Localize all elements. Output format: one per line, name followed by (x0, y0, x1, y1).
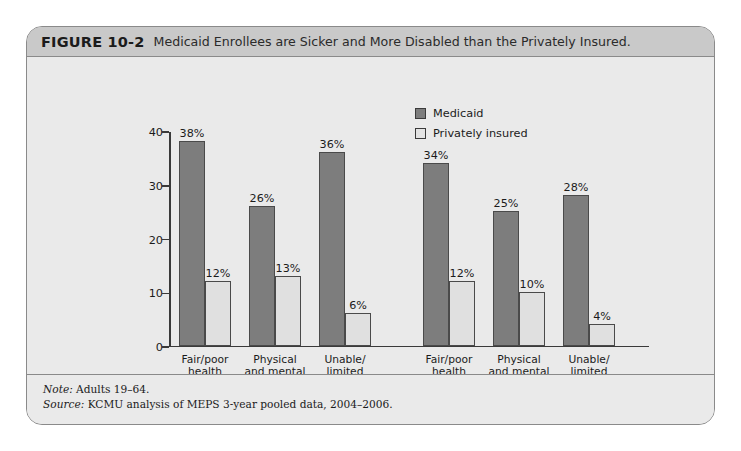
bar-private: 4% (589, 324, 615, 346)
y-axis-tick-mark (162, 346, 169, 348)
bar-value-label: 10% (520, 278, 545, 291)
y-axis-tick-mark (162, 185, 169, 187)
bar-chart: 010203040 38%12%26%13%36%6%34%12%25%10%2… (143, 132, 643, 347)
bar-value-label: 12% (450, 267, 475, 280)
bar-value-label: 25% (494, 197, 519, 210)
bar-value-label: 34% (424, 149, 449, 162)
bar-medicaid: 26% (249, 206, 275, 346)
bar-value-label: 13% (276, 262, 301, 275)
y-axis-tick-label: 10 (137, 287, 163, 300)
y-axis-tick-label: 20 (137, 233, 163, 246)
legend-label: Medicaid (433, 107, 483, 120)
y-axis-tick-label: 0 (137, 341, 163, 354)
legend-swatch-icon (415, 108, 426, 119)
source-line: Source: KCMU analysis of MEPS 3-year poo… (43, 397, 714, 412)
y-axis-tick-label: 40 (137, 126, 163, 139)
figure-footer: Note: Adults 19–64. Source: KCMU analysi… (27, 374, 714, 424)
y-axis (169, 132, 171, 347)
legend-item-medicaid: Medicaid (415, 105, 528, 122)
bar-value-label: 28% (564, 181, 589, 194)
chart-plot-region: Medicaid Privately insured 010203040 38%… (27, 57, 714, 396)
y-axis-tick-label: 30 (137, 179, 163, 192)
note-text: Adults 19–64. (73, 383, 150, 395)
x-axis (169, 346, 649, 348)
bar-private: 12% (205, 281, 231, 346)
y-axis-tick-mark (162, 239, 169, 241)
figure-title: Medicaid Enrollees are Sicker and More D… (154, 34, 631, 49)
bar-value-label: 6% (349, 299, 367, 312)
plot-inner: 010203040 38%12%26%13%36%6%34%12%25%10%2… (169, 132, 643, 347)
bar-private: 13% (275, 276, 301, 346)
bar-private: 6% (345, 313, 371, 345)
note-line: Note: Adults 19–64. (43, 382, 714, 397)
bar-medicaid: 38% (179, 141, 205, 345)
figure-header: FIGURE 10-2 Medicaid Enrollees are Sicke… (27, 27, 714, 57)
bar-value-label: 26% (250, 192, 275, 205)
bar-medicaid: 25% (493, 211, 519, 345)
y-axis-tick-mark (162, 293, 169, 295)
bar-value-label: 36% (320, 138, 345, 151)
bar-private: 12% (449, 281, 475, 346)
y-axis-tick-mark (162, 131, 169, 133)
source-lead: Source: (43, 398, 84, 410)
bar-private: 10% (519, 292, 545, 346)
figure-container: FIGURE 10-2 Medicaid Enrollees are Sicke… (26, 26, 715, 425)
bar-value-label: 4% (593, 310, 611, 323)
bar-medicaid: 36% (319, 152, 345, 346)
figure-number: FIGURE 10-2 (41, 34, 145, 50)
note-lead: Note: (43, 383, 73, 395)
source-text: KCMU analysis of MEPS 3-year pooled data… (84, 398, 392, 410)
bar-medicaid: 34% (423, 163, 449, 346)
bar-value-label: 12% (206, 267, 231, 280)
bar-value-label: 38% (180, 127, 205, 140)
bar-medicaid: 28% (563, 195, 589, 346)
